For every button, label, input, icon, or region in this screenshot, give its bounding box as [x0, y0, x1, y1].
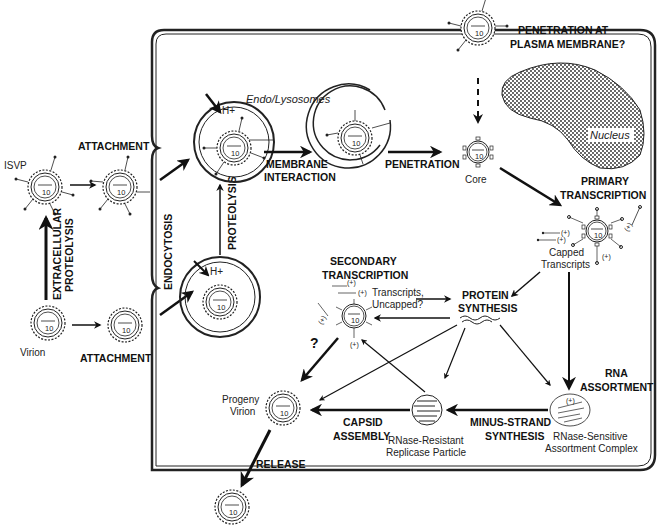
isvp-label: ISVP: [4, 160, 27, 171]
core-label: Core: [465, 174, 487, 185]
progeny-virion-particle: 10: [266, 391, 300, 425]
svg-text:10: 10: [594, 231, 602, 240]
release-label: RELEASE: [256, 458, 306, 470]
svg-text:(+): (+): [557, 236, 566, 244]
penetration-plasma-membrane-label: PENETRATION AT PLASMA MEMBRANE?: [510, 24, 625, 50]
question-mark: ?: [310, 335, 319, 351]
secondary-transcription-particle: 10 (+): [336, 299, 372, 349]
rna-assortment-label: RNA ASSORTMENT: [580, 367, 654, 393]
capped-transcripts-label: Capped Transcripts: [541, 247, 590, 270]
endocytosis-label: ENDOCYTOSIS: [162, 214, 174, 290]
svg-text:10: 10: [117, 188, 125, 197]
extracellular-proteolysis-label: EXTRACELLULAR PROTEOLYSIS: [51, 205, 75, 300]
replicase-particle: [412, 395, 442, 425]
svg-text:(+): (+): [350, 341, 359, 349]
svg-text:(+): (+): [317, 314, 328, 326]
replicase-label: RNase-Resistant Replicase Particle: [386, 435, 466, 458]
reovirus-replication-diagram: Nucleus 10 ISVP 10 ATTACHMENT 10 Virion …: [0, 0, 671, 532]
attachment-bottom-label: ATTACHMENT: [80, 352, 152, 364]
capped-transcripts: (+) (+): [537, 229, 570, 244]
endosome-top: 10 H+: [194, 94, 274, 182]
minus-strand-synthesis-label: MINUS-STRAND SYNTHESIS: [470, 416, 554, 442]
assortment-complex-label: RNase-Sensitive Assortment Complex: [545, 431, 638, 454]
endosome-bottom: 10 H+: [180, 257, 260, 337]
core-particle: 10: [463, 137, 493, 167]
svg-text:(+): (+): [358, 289, 367, 297]
virion-attached-particle: 10: [108, 308, 142, 342]
svg-text:10: 10: [229, 508, 237, 517]
svg-text:10: 10: [42, 188, 50, 197]
svg-text:10: 10: [45, 324, 53, 333]
nucleus: [502, 63, 644, 169]
svg-text:10: 10: [351, 316, 359, 325]
protein-synthesis-label: PROTEIN SYNTHESIS: [458, 289, 518, 314]
svg-text:H+: H+: [222, 105, 235, 116]
capsid-assembly-label: CAPSID ASSEMBLY: [333, 416, 390, 442]
proteolysis-label: PROTEOLYSIS: [226, 176, 238, 250]
virion-particle: 10: [31, 306, 65, 340]
svg-text:10: 10: [280, 409, 288, 418]
svg-text:10: 10: [352, 139, 360, 148]
assortment-complex: (+): [550, 394, 590, 426]
virion-at-plasma-membrane: 10: [448, 0, 509, 52]
svg-text:(+): (+): [347, 279, 356, 287]
isvp-attached-particle: 10: [90, 156, 151, 216]
svg-text:H+: H+: [210, 266, 223, 277]
primary-transcription-label: PRIMARY TRANSCRIPTION: [560, 175, 646, 201]
svg-text:10: 10: [475, 29, 483, 38]
released-virion-particle: 10: [215, 490, 249, 524]
endosome-penetrating: 10: [306, 84, 390, 168]
svg-text:(+): (+): [602, 253, 611, 261]
attachment-top-label: ATTACHMENT: [78, 140, 150, 152]
svg-text:10: 10: [122, 326, 130, 335]
nucleus-label: Nucleus: [590, 129, 630, 141]
svg-text:10: 10: [475, 152, 483, 161]
svg-text:10: 10: [217, 303, 225, 312]
mrna-wave: [460, 316, 500, 320]
virion-label: Virion: [20, 347, 45, 358]
secondary-transcription-label: SECONDARY TRANSCRIPTION: [322, 255, 408, 281]
progeny-virion-label: Progeny Virion: [222, 394, 262, 417]
penetration-label: PENETRATION: [385, 158, 459, 170]
svg-text:10: 10: [231, 149, 239, 158]
